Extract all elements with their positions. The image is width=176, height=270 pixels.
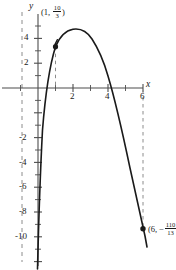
- y-tick-label-neg4: -4: [19, 158, 27, 167]
- y-tick-label-4: 4: [24, 33, 29, 42]
- point-label-right-minus: −: [159, 224, 164, 234]
- point-label-left-denominator: 3: [53, 12, 62, 19]
- point-label-left-fraction: 103: [53, 4, 62, 19]
- marked-point-left: [53, 44, 58, 49]
- y-tick-label-neg10: -10: [15, 232, 27, 241]
- x-tick-label-6: 6: [140, 92, 145, 101]
- point-label-left-numerator: 10: [53, 4, 62, 12]
- point-label-left: (1, 103): [41, 4, 65, 19]
- marked-point-right: [140, 226, 145, 231]
- y-tick-label-neg6: -6: [19, 182, 27, 191]
- y-tick-label-neg2: -2: [19, 133, 27, 142]
- point-label-right: (6, −11013): [148, 221, 176, 236]
- x-tick-label-2: 2: [70, 92, 75, 101]
- x-axis-label: x: [146, 80, 150, 90]
- point-label-left-sep: ,: [48, 7, 52, 17]
- y-axis-label: y: [29, 2, 33, 12]
- point-label-left-close: ): [62, 7, 65, 17]
- point-label-right-fraction: 11013: [165, 221, 176, 236]
- y-tick-label-neg8: -8: [19, 207, 27, 216]
- curve-path: [38, 29, 148, 269]
- y-tick-label-2: 2: [24, 58, 29, 67]
- graph-figure: y x 4 2 -2 -4 -6 -8 -10 2 4 6 (1, 103) (…: [0, 0, 176, 270]
- point-label-right-numerator: 110: [165, 221, 176, 229]
- x-tick-label-4: 4: [105, 92, 110, 101]
- point-label-right-denominator: 13: [165, 229, 176, 236]
